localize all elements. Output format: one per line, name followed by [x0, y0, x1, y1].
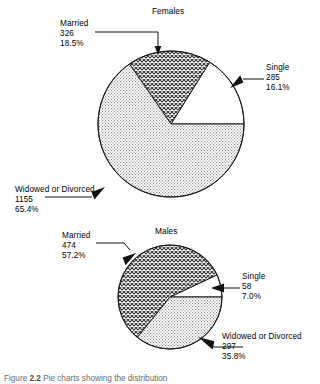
males-married-name: Married — [62, 231, 90, 241]
males-single-name: Single — [242, 272, 265, 282]
males-label-married: Married 474 57.2% — [62, 231, 90, 262]
females-single-name: Single — [266, 63, 290, 73]
males-widowed-percent: 35.8% — [222, 352, 302, 362]
females-married-name: Married — [60, 19, 88, 29]
females-leader-single — [230, 75, 264, 88]
males-label-single: Single 58 7.0% — [242, 272, 265, 303]
males-married-value: 474 — [62, 241, 90, 251]
females-widowed-value: 1155 — [15, 195, 95, 205]
females-single-percent: 16.1% — [266, 83, 290, 93]
females-pie — [98, 51, 244, 197]
females-single-value: 285 — [266, 73, 290, 83]
females-label-married: Married 326 18.5% — [60, 19, 88, 50]
females-chart-title: Females — [152, 6, 184, 16]
females-label-single: Single 285 16.1% — [266, 63, 290, 94]
females-married-value: 326 — [60, 29, 88, 39]
females-widowed-name: Widowed or Divorced — [15, 185, 95, 195]
males-label-widowed: Widowed or Divorced 297 35.8% — [222, 332, 302, 363]
males-married-percent: 57.2% — [62, 251, 90, 261]
females-label-widowed: Widowed or Divorced 1155 65.4% — [15, 185, 95, 216]
females-leader-married — [95, 32, 161, 55]
females-widowed-percent: 65.4% — [15, 205, 95, 215]
males-chart-title: Males — [155, 226, 177, 236]
males-single-percent: 7.0% — [242, 292, 265, 302]
males-pie — [118, 245, 222, 349]
females-married-percent: 18.5% — [60, 39, 88, 49]
caption-text: Pie charts showing the distribution — [43, 374, 167, 383]
males-leader-married — [96, 243, 136, 265]
caption-number: 2.2 — [30, 374, 41, 383]
figure-caption: Figure 2.2 Pie charts showing the distri… — [4, 374, 167, 384]
caption-label: Figure — [4, 374, 27, 383]
males-widowed-name: Widowed or Divorced — [222, 332, 302, 342]
males-single-value: 58 — [242, 282, 265, 292]
males-widowed-value: 297 — [222, 342, 302, 352]
